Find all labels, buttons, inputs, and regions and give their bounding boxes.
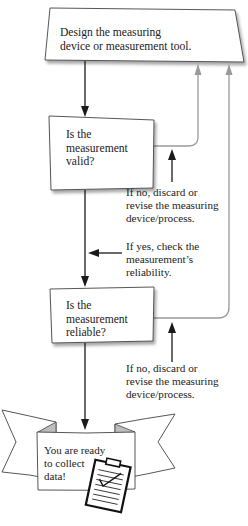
- annotation-arrow-left-icon: [88, 249, 99, 257]
- feedback-arrow-valid-icon: [195, 64, 202, 75]
- flowchart-graphics: [0, 0, 248, 526]
- step-design-text: Design the measuring device or measureme…: [60, 26, 191, 53]
- feedback-line-valid: [154, 72, 198, 146]
- flow-arrow-down-icon: [81, 106, 89, 117]
- annotation-arrow-up-icon: [168, 149, 176, 160]
- step-reliable-text: Is the measurement reliable?: [66, 299, 128, 340]
- step-valid-text: Is the measurement valid?: [66, 128, 128, 169]
- flow-arrow-down-icon: [81, 419, 89, 430]
- annotation-no-reliable: If no, discard or revise the measuring d…: [126, 362, 219, 402]
- annotation-arrow-up-icon: [168, 322, 176, 333]
- flow-arrow-down-icon: [81, 276, 89, 287]
- annotation-no-valid: If no, discard or revise the measuring d…: [126, 186, 219, 226]
- feedback-arrow-reliable-icon: [226, 64, 233, 75]
- step-ready-text: You are ready to collect data!: [44, 444, 105, 482]
- annotation-yes-valid: If yes, check the measurement’s reliabil…: [126, 240, 199, 280]
